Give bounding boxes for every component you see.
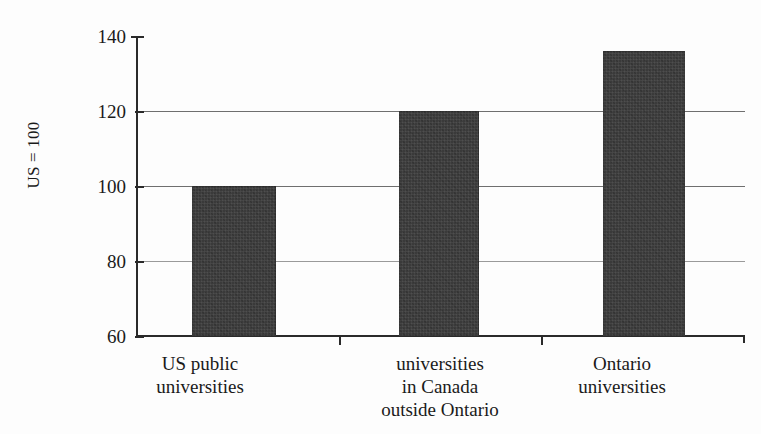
x-tick-divider-2 <box>541 336 543 345</box>
y-tick-120: 120 <box>135 111 144 113</box>
y-tick-label-140: 140 <box>98 27 127 46</box>
x-label-ontario-universities: Ontario universities <box>532 352 712 398</box>
y-tick-label-60: 60 <box>107 327 126 346</box>
bar-chart-figure: US = 100 140 120 100 80 60 US public un <box>0 0 761 434</box>
y-tick-80: 80 <box>135 261 144 263</box>
y-tick-label-80: 80 <box>107 252 126 271</box>
clipped-title <box>0 0 761 4</box>
x-label-us-public-universities: US public universities <box>120 352 280 398</box>
y-axis-title: US = 100 <box>24 85 44 225</box>
bar-us-public-universities <box>192 186 276 336</box>
y-tick-140: 140 <box>135 36 144 38</box>
bar-ontario-universities <box>603 51 685 336</box>
plot-area: 140 120 100 80 60 <box>136 36 745 336</box>
x-tick-divider-1 <box>339 336 341 345</box>
x-axis-end-cap <box>743 335 745 343</box>
y-tick-100: 100 <box>135 186 144 188</box>
y-tick-60: 60 <box>135 336 144 338</box>
bar-universities-in-canada-outside-ontario <box>399 111 479 336</box>
y-tick-label-120: 120 <box>98 102 127 121</box>
y-tick-label-100: 100 <box>98 177 127 196</box>
x-label-universities-in-canada-outside-ontario: universities in Canada outside Ontario <box>334 352 546 421</box>
